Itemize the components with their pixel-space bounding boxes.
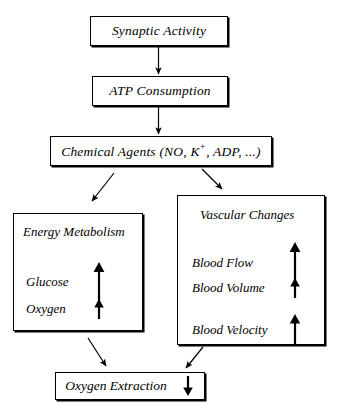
chemical-agents-suffix: , ADP, ...) — [206, 144, 261, 159]
node-chemical-agents: Chemical Agents (NO, K+, ADP, ...) — [50, 136, 272, 166]
row-blood-flow-label: Blood Flow — [192, 255, 288, 271]
node-vascular-changes: Vascular Changes Blood Flow Blood Volume… — [177, 195, 325, 345]
up-arrow-icon — [288, 277, 302, 299]
row-oxygen-extraction: Oxygen Extraction — [65, 375, 195, 397]
up-arrow-icon — [92, 298, 106, 320]
node-energy-metabolism: Energy Metabolism Glucose Oxygen — [13, 213, 143, 331]
row-oxygen: Oxygen — [26, 298, 106, 320]
edge-chemical-to-vascular — [202, 169, 222, 189]
node-chemical-agents-label: Chemical Agents (NO, K+, ADP, ...) — [61, 142, 261, 160]
row-glucose: Glucose — [26, 261, 106, 303]
energy-metabolism-title: Energy Metabolism — [23, 224, 125, 240]
row-blood-volume: Blood Volume — [192, 277, 302, 299]
node-atp-consumption-label: ATP Consumption — [109, 83, 211, 99]
row-glucose-label: Glucose — [26, 274, 92, 290]
chemical-agents-prefix: Chemical Agents (NO, K — [61, 144, 199, 159]
edge-energy-to-oxygen-extraction — [88, 338, 106, 366]
node-atp-consumption: ATP Consumption — [92, 76, 228, 106]
row-blood-velocity: Blood Velocity — [192, 313, 302, 347]
edge-chemical-to-energy — [92, 173, 114, 201]
up-arrow-icon — [92, 261, 106, 303]
node-synaptic-activity-label: Synaptic Activity — [112, 23, 206, 39]
node-synaptic-activity: Synaptic Activity — [90, 16, 228, 46]
edge-vascular-to-oxygen-extraction — [186, 347, 203, 368]
flowchart-diagram: Synaptic Activity ATP Consumption Chemic… — [0, 0, 337, 415]
vascular-changes-title: Vascular Changes — [200, 207, 294, 223]
up-arrow-icon — [288, 313, 302, 347]
node-oxygen-extraction: Oxygen Extraction — [55, 372, 205, 400]
row-blood-velocity-label: Blood Velocity — [192, 322, 288, 338]
down-arrow-icon — [181, 375, 195, 397]
node-oxygen-extraction-label: Oxygen Extraction — [65, 378, 167, 394]
row-oxygen-label: Oxygen — [26, 301, 92, 317]
row-blood-volume-label: Blood Volume — [192, 280, 288, 296]
